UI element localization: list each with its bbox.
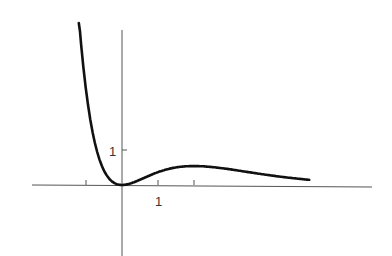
x-tick-label-1: 1	[155, 194, 162, 209]
function-curve	[79, 23, 309, 185]
chart-canvas: 1 1	[0, 0, 392, 256]
x-axis	[32, 185, 372, 187]
y-tick-label-1: 1	[109, 144, 116, 159]
